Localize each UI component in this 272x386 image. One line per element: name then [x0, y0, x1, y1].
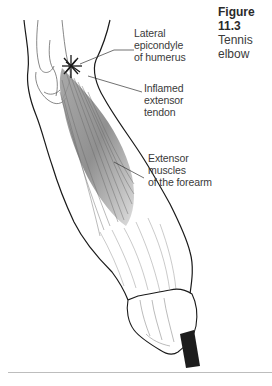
- label-line: epicondyle: [134, 39, 186, 51]
- label-line: of humerus: [134, 51, 186, 63]
- label-inflamed-tendon: Inflamed extensor tendon: [144, 82, 183, 118]
- label-line: tendon: [144, 106, 183, 118]
- label-extensor-muscles: Extensor muscles of the forearm: [148, 152, 212, 188]
- tennis-elbow-figure: Lateral epicondyle of humerus Inflamed e…: [0, 0, 272, 386]
- figure-number: Figure 11.3: [218, 5, 272, 33]
- label-line: Extensor: [148, 152, 212, 164]
- divider-rule: [8, 372, 272, 373]
- label-line: extensor: [144, 94, 183, 106]
- forearm-lines: [100, 218, 176, 292]
- figure-caption: Figure 11.3 Tennis elbow: [218, 5, 272, 61]
- label-line: Inflamed: [144, 82, 183, 94]
- figure-title: Tennis elbow: [218, 33, 272, 61]
- racket-handle: [180, 330, 200, 368]
- label-line: muscles: [148, 164, 212, 176]
- label-lateral-epicondyle: Lateral epicondyle of humerus: [134, 27, 186, 63]
- label-line: of the forearm: [148, 176, 212, 188]
- label-line: Lateral: [134, 27, 186, 39]
